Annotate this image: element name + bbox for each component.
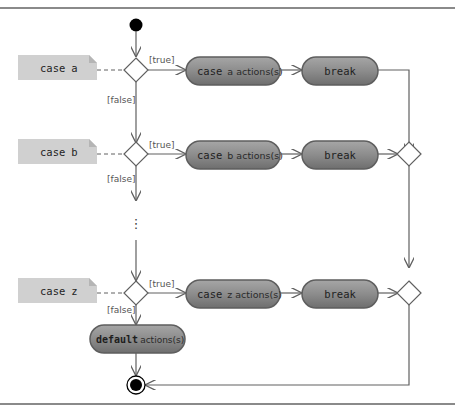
case-a-action: casea actions(s) [186,57,283,85]
case-b-action: caseb actions(s) [186,141,283,169]
case-b-guard-true: [true] [149,140,175,150]
svg-text:caseb: caseb [40,146,78,158]
case-z-action: casez actions(s) [186,280,282,308]
svg-text:casea: casea [40,62,78,74]
svg-text:casea actions(s): casea actions(s) [197,65,283,77]
case-z-merge [397,281,421,305]
case-z-row: casez [true] casez actions(s) break [fal… [18,278,421,385]
case-z-guard-true: [true] [149,279,175,289]
initial-node [130,19,143,32]
case-z-note: casez [18,278,97,303]
case-b-merge [397,142,421,166]
ellipsis: ⋮ [130,216,143,231]
case-z-break: break [302,280,378,308]
switch-activity-diagram: casea [true] casea actions(s) break [fal… [0,0,455,409]
case-b-break: break [302,141,378,169]
case-b-guard-false: [false] [107,174,135,184]
svg-text:caseb actions(s): caseb actions(s) [197,149,283,161]
default-action: defaultactions(s) [90,325,185,353]
case-b-decision [124,142,148,166]
svg-text:casez actions(s): casez actions(s) [197,288,282,300]
svg-text:break: break [324,149,356,161]
svg-text:defaultactions(s): defaultactions(s) [96,334,184,345]
case-a-decision [124,58,148,82]
final-node [127,376,145,394]
case-a-guard-false: [false] [107,95,135,105]
case-a-break: break [302,57,378,85]
case-a-note: casea [18,55,97,80]
case-z-decision [124,281,148,305]
svg-text:break: break [324,288,356,300]
svg-text:break: break [324,65,356,77]
svg-text:casez: casez [40,285,78,297]
case-a-row: casea [true] casea actions(s) break [fal… [18,55,409,153]
case-a-guard-true: [true] [149,55,175,65]
case-z-guard-false: [false] [107,305,135,315]
case-b-row: caseb [true] caseb actions(s) break [fal… [18,139,421,267]
case-b-note: caseb [18,139,97,164]
